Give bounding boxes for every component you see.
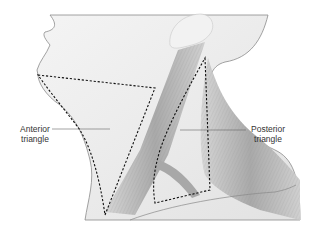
posterior-label-line1: Posterior (248, 124, 288, 134)
posterior-triangle-label: Posterior triangle (248, 124, 288, 144)
anterior-label-line1: Anterior (15, 124, 55, 134)
neck-triangles-illustration (0, 0, 312, 226)
anterior-label-line2: triangle (15, 134, 55, 144)
anterior-triangle-label: Anterior triangle (15, 124, 55, 144)
posterior-label-line2: triangle (248, 134, 288, 144)
